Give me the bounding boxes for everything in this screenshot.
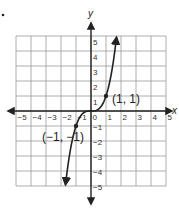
point-label: (1, 1): [112, 92, 140, 106]
x-tick-label: 1: [108, 113, 113, 122]
y-tick-label: 4: [93, 53, 98, 62]
y-tick-label: −5: [93, 183, 103, 192]
y-tick-label: −2: [93, 138, 103, 147]
y-tick-label: 5: [93, 38, 98, 47]
y-tick-label: 2: [93, 83, 98, 92]
y-axis-label: y: [87, 8, 94, 19]
x-tick-label: −5: [18, 113, 28, 122]
x-tick-label: 5: [168, 113, 173, 122]
y-tick-label: −4: [93, 168, 103, 177]
x-tick-label: 0: [93, 113, 98, 122]
y-tick-label: 1: [93, 98, 98, 107]
point-marker: [74, 124, 78, 128]
x-tick-label: −4: [33, 113, 43, 122]
bullet-dot: [2, 14, 5, 17]
point-marker: [104, 94, 108, 98]
y-tick-label: 3: [93, 68, 98, 77]
x-tick-label: −3: [48, 113, 58, 122]
x-tick-label: 3: [138, 113, 143, 122]
point-label: (−1, −1): [42, 130, 84, 144]
tick-labels: −5−4−3−2−101234554321−1−2−3−4−5: [18, 38, 173, 192]
x-tick-label: 4: [153, 113, 158, 122]
x-tick-label: 2: [123, 113, 128, 122]
x-tick-label: −2: [63, 113, 73, 122]
graph: x y −5−4−3−2−101234554321−1−2−3−4−5 (1, …: [0, 0, 179, 212]
y-tick-label: −1: [93, 123, 103, 132]
y-tick-label: −3: [93, 153, 103, 162]
x-axis-label: x: [171, 105, 178, 116]
